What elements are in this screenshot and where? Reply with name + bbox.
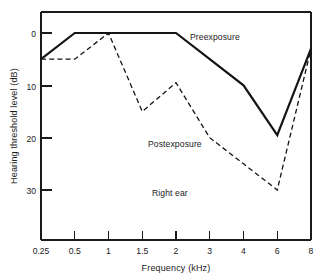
x-axis-title: Frequency (kHz): [142, 263, 211, 273]
right-ear-note: Right ear: [152, 188, 188, 198]
x-tick-label-3: 3: [207, 246, 212, 256]
preexposure-annotation: Preexposure: [190, 32, 240, 42]
x-tick-label-2: 2: [174, 246, 179, 256]
x-tick-label-8: 8: [309, 246, 314, 256]
postexposure-annotation: Postexposure: [148, 139, 202, 149]
x-tick-label-1.5: 1.5: [136, 246, 148, 256]
y-axis-title: Hearing threshold level (dB): [9, 68, 19, 184]
y-tick-label-10: 10: [26, 82, 36, 92]
y-tick-label-0: 0: [31, 29, 36, 39]
x-tick-label-1: 1: [106, 246, 111, 256]
y-tick-label-20: 20: [26, 134, 36, 144]
x-tick-label-0.25: 0.25: [33, 246, 50, 256]
x-tick-label-6: 6: [275, 246, 280, 256]
y-tick-label-30: 30: [26, 186, 36, 196]
chart-figure: 0 10 20 30 0.25 0.5 1 1.5 2 3 4 6: [0, 0, 327, 280]
hearing-threshold-chart: 0 10 20 30 0.25 0.5 1 1.5 2 3 4 6: [0, 0, 327, 280]
x-tick-label-4: 4: [241, 246, 246, 256]
x-tick-label-0.5: 0.5: [69, 246, 81, 256]
